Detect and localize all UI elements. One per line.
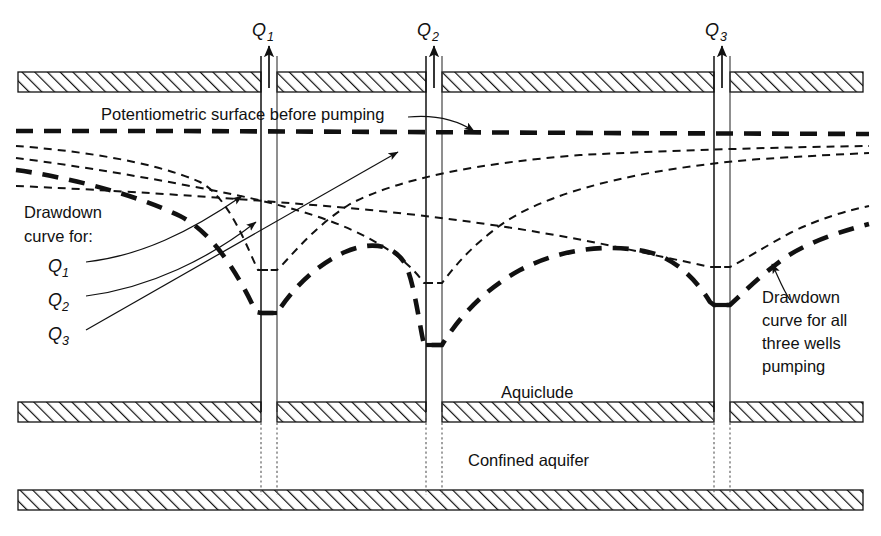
- hydrogeology-diagram: Potentiometric surface before pumping Dr…: [0, 0, 881, 536]
- drawdown-legend-line-2: curve for:: [24, 227, 93, 245]
- legend-q3-subscript: 3: [62, 334, 69, 348]
- lower-confining-bed: [18, 490, 863, 510]
- legend-q2-subscript: 2: [61, 300, 69, 314]
- upper-confining-bed-segment: [442, 72, 714, 92]
- combined-label-line-4: pumping: [762, 357, 825, 375]
- well-2-q-subscript: 2: [431, 30, 439, 44]
- upper-confining-bed-segment: [277, 72, 426, 92]
- lower-confining-bed-segment: [18, 490, 863, 510]
- legend-q1-symbol: Q: [48, 256, 62, 276]
- legend-q1-subscript: 1: [62, 266, 69, 280]
- well-2-q-symbol: Q: [417, 20, 431, 40]
- aquiclude-segment: [277, 402, 426, 422]
- aquiclude-segment: [730, 402, 863, 422]
- aquiclude-segment: [18, 402, 261, 422]
- aquiclude-label: Aquiclude: [501, 383, 573, 401]
- legend-q2-symbol: Q: [48, 290, 62, 310]
- well-3-q-subscript: 3: [720, 30, 727, 44]
- combined-label-line-3: three wells: [762, 334, 841, 352]
- well-1-q-symbol: Q: [252, 20, 266, 40]
- combined-label-line-1: Drawdown: [762, 288, 840, 306]
- combined-label-line-2: curve for all: [762, 311, 847, 329]
- aquiclude-segment: [442, 402, 714, 422]
- confined-aquifer-label: Confined aquifer: [468, 451, 590, 469]
- drawdown-legend-line-1: Drawdown: [24, 203, 102, 221]
- potentiometric-label: Potentiometric surface before pumping: [101, 105, 384, 123]
- legend-q3-symbol: Q: [48, 324, 62, 344]
- upper-confining-bed-segment: [18, 72, 261, 92]
- well-3-q-symbol: Q: [705, 20, 719, 40]
- upper-confining-bed-segment: [730, 72, 863, 92]
- diagram-canvas: Potentiometric surface before pumping Dr…: [0, 0, 881, 536]
- well-1-q-subscript: 1: [267, 30, 274, 44]
